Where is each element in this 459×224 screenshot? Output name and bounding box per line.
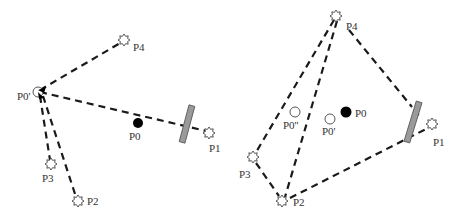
star-p3-icon xyxy=(247,151,259,163)
ray-p0p-to-p4 xyxy=(40,42,122,90)
point-p0-marker xyxy=(341,107,352,118)
star-p2-icon xyxy=(276,195,288,207)
label-left-p1: P1 xyxy=(209,142,221,154)
label-right-p2: P2 xyxy=(293,196,305,208)
label-right-p3: P3 xyxy=(239,168,251,180)
star-p3-icon xyxy=(45,158,57,170)
edge-p4-to-p1 xyxy=(349,30,412,107)
label-left-p2: P2 xyxy=(87,195,99,207)
star-p4-icon xyxy=(118,34,130,46)
label-left-p0-prime: P0' xyxy=(17,90,31,102)
ray-p0p-to-p3 xyxy=(40,96,50,160)
point-p0-double-prime-marker xyxy=(290,107,300,117)
star-p4-icon xyxy=(330,10,342,22)
label-right-p0-prime: P0' xyxy=(322,125,336,137)
star-p1-icon xyxy=(426,118,438,130)
star-p2-icon xyxy=(72,195,84,207)
label-right-p1: P1 xyxy=(433,136,445,148)
obstacle-bar xyxy=(179,105,195,143)
edge-p3-to-p2 xyxy=(256,163,279,196)
label-right-p0-double-prime: P0'' xyxy=(283,119,299,131)
left-panel: P4 P0' P0 P1 P3 P2 xyxy=(17,34,221,207)
star-p1-icon xyxy=(203,127,215,139)
right-panel: P4 P0'' P0' P0 P1 P3 P2 xyxy=(239,10,445,208)
label-left-p3: P3 xyxy=(42,172,54,184)
diagram-canvas: P4 P0' P0 P1 P3 P2 P4 P0'' P0' P0 P1 P3 … xyxy=(0,0,459,224)
point-p0-prime-marker xyxy=(325,114,335,124)
label-left-p4: P4 xyxy=(133,41,145,53)
label-right-p0: P0 xyxy=(355,107,367,119)
ray-p0p-to-p1 xyxy=(40,92,206,131)
label-left-p0: P0 xyxy=(129,130,141,142)
label-right-p4: P4 xyxy=(346,20,358,32)
point-p0-marker xyxy=(133,118,143,128)
